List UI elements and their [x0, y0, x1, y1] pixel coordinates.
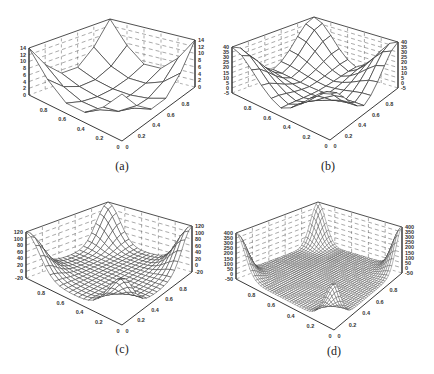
z-tick-right: 14	[198, 37, 205, 43]
y-tick: 0.6	[372, 112, 380, 118]
y-tick: 0.6	[165, 296, 173, 302]
z-tick-left: 150	[224, 256, 233, 262]
y-tick: 0	[333, 143, 336, 149]
caption-c: (c)	[115, 342, 128, 357]
z-tick-left: 10	[223, 75, 229, 81]
z-tick-left: 120	[14, 229, 23, 235]
y-tick: 0	[125, 328, 128, 334]
y-tick: 0.8	[179, 286, 187, 292]
z-tick-right: 100	[195, 230, 204, 236]
z-tick-left: 2	[23, 85, 26, 91]
z-tick-left: 8	[23, 65, 26, 71]
x-tick: 0	[116, 144, 119, 150]
surface-plot-b: -5-500551010151520202525303035354040000.…	[223, 17, 407, 149]
z-tick-right: 10	[401, 70, 407, 76]
z-tick-left: 0	[23, 92, 26, 98]
x-tick: 0.6	[263, 115, 271, 121]
z-tick-right: 200	[405, 244, 414, 250]
caption-a: (a)	[115, 159, 128, 174]
z-tick-right: 4	[198, 71, 202, 77]
z-tick-right: 0	[195, 262, 198, 268]
x-tick: 0.6	[57, 300, 65, 306]
z-tick-right: 6	[198, 64, 201, 70]
x-tick: 0.8	[248, 292, 256, 298]
z-tick-right: 400	[405, 224, 414, 230]
z-tick-left: 100	[14, 236, 23, 242]
z-tick-right: 150	[405, 250, 414, 256]
z-tick-left: 5	[226, 80, 229, 86]
z-tick-left: 80	[17, 242, 23, 248]
x-tick: 0.6	[267, 302, 275, 308]
z-tick-right: 100	[405, 255, 414, 261]
y-tick: 0.8	[182, 101, 190, 107]
z-tick-left: 35	[223, 49, 229, 55]
z-tick-left: 20	[17, 262, 23, 268]
x-tick: 0.8	[244, 105, 252, 111]
z-tick-left: 200	[224, 250, 233, 256]
x-tick: 0.4	[283, 124, 292, 130]
z-tick-right: -50	[405, 270, 413, 276]
x-tick: 0.4	[287, 313, 296, 319]
z-tick-right: 5	[401, 75, 404, 81]
y-tick: 0.2	[137, 317, 145, 323]
z-tick-left: -5	[224, 90, 229, 96]
z-tick-right: -5	[401, 85, 406, 91]
z-tick-left: -50	[225, 276, 233, 282]
y-tick: 0.6	[376, 299, 384, 305]
z-tick-right: 0	[401, 80, 404, 86]
y-tick: 0.8	[386, 101, 394, 107]
z-tick-right: 120	[195, 223, 204, 229]
z-tick-left: 350	[224, 235, 233, 241]
y-tick: 0.2	[345, 133, 353, 139]
y-tick: 0.4	[151, 307, 160, 313]
surface-plot-d: -50-500050501001001501502002002502503003…	[224, 202, 414, 339]
surface-plot-c: -20-20002020404060608080100100120120000.…	[14, 202, 204, 334]
z-tick-right: 350	[405, 229, 414, 235]
z-tick-left: 0	[226, 85, 229, 91]
x-tick: 0.8	[40, 107, 48, 113]
y-tick: 0.4	[358, 122, 367, 128]
z-tick-right: 20	[195, 256, 201, 262]
z-tick-left: 4	[23, 79, 27, 85]
z-tick-right: 50	[405, 260, 411, 266]
z-tick-left: 20	[223, 64, 229, 70]
z-tick-left: 14	[20, 45, 27, 51]
z-tick-left: 10	[20, 58, 26, 64]
x-tick: 0.6	[58, 116, 66, 122]
caption-d: (d)	[327, 344, 341, 359]
x-tick: 0.4	[77, 126, 86, 132]
z-tick-right: 12	[198, 44, 204, 50]
y-tick: 0	[337, 333, 340, 339]
y-tick: 0.6	[167, 112, 175, 118]
surface-mesh	[232, 17, 398, 108]
y-tick: 0.2	[138, 133, 146, 139]
z-tick-left: 6	[23, 72, 26, 78]
z-tick-left: 100	[224, 261, 233, 267]
z-tick-right: 2	[198, 77, 201, 83]
y-tick: 0.4	[362, 310, 371, 316]
z-tick-right: 10	[198, 50, 204, 56]
z-tick-left: 15	[223, 70, 229, 76]
x-tick: 0.2	[95, 319, 103, 325]
surface-mesh	[26, 202, 192, 300]
z-tick-right: 40	[401, 39, 407, 45]
x-tick: 0.8	[37, 290, 45, 296]
z-tick-right: 15	[401, 65, 407, 71]
y-tick: 0.4	[152, 122, 161, 128]
x-tick: 0.2	[307, 323, 315, 329]
surface-plot-a: 0022446688101012121414000.20.20.40.40.60…	[20, 19, 205, 150]
surface-mesh	[29, 19, 195, 112]
z-tick-left: 12	[20, 52, 26, 58]
x-tick: 0.2	[303, 134, 311, 140]
z-tick-right: 35	[401, 44, 407, 50]
caption-b: (b)	[321, 159, 335, 174]
z-tick-right: 60	[195, 243, 201, 249]
y-tick: 0.8	[390, 287, 398, 293]
z-tick-right: 0	[405, 265, 408, 271]
x-tick: 0.4	[76, 309, 85, 315]
z-tick-left: 400	[224, 230, 233, 236]
z-tick-right: 20	[401, 59, 407, 65]
z-tick-left: -20	[15, 275, 23, 281]
z-tick-left: 0	[230, 271, 233, 277]
z-tick-right: -20	[195, 269, 203, 275]
